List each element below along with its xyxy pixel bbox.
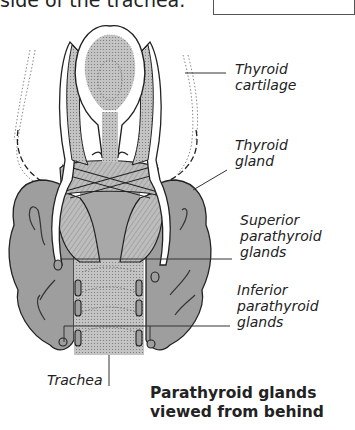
trachea <box>74 258 144 355</box>
figure-caption: Parathyroid glands viewed from behind <box>150 384 324 422</box>
label-superior-parathyroid: Superior parathyroid glands <box>240 212 322 260</box>
label-thyroid-cartilage: Thyroid cartilage <box>235 61 296 93</box>
label-inferior-parathyroid: Inferior parathyroid glands <box>237 282 319 330</box>
label-trachea: Trachea <box>47 372 103 388</box>
label-thyroid-gland: Thyroid gland <box>235 137 288 169</box>
